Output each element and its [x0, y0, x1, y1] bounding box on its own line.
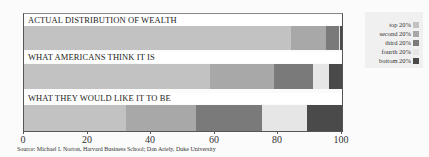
bar-think	[24, 64, 342, 89]
row-label-ideal: WHAT THEY WOULD LIKE IT TO BE	[25, 93, 341, 104]
segment-fourth	[313, 64, 329, 89]
legend-swatch	[413, 40, 419, 46]
segment-top	[24, 64, 210, 89]
legend-label: fourth 20%	[382, 48, 411, 55]
segment-bottom	[340, 26, 342, 50]
x-tick-label: 0	[21, 134, 26, 145]
segment-bottom	[307, 105, 342, 132]
row-label-actual: ACTUAL DISTRIBUTION OF WEALTH	[25, 15, 341, 26]
segment-second	[126, 105, 196, 132]
legend-label: third 20%	[385, 39, 411, 46]
legend-item-second: second 20%	[379, 30, 419, 37]
legend-item-top: top 20%	[389, 21, 419, 28]
legend-swatch	[413, 31, 419, 37]
x-tick-label: 100	[334, 134, 349, 145]
segment-second	[210, 64, 274, 89]
segment-third	[274, 64, 314, 89]
legend-swatch	[413, 49, 419, 55]
row-label-think: WHAT AMERICANS THINK IT IS	[25, 52, 341, 63]
legend-swatch	[413, 22, 419, 28]
x-axis	[23, 131, 341, 132]
segment-third	[196, 105, 263, 132]
bar-actual	[24, 26, 342, 50]
legend-item-third: third 20%	[385, 39, 419, 46]
legend-item-fourth: fourth 20%	[382, 48, 419, 55]
segment-second	[291, 26, 326, 50]
segment-bottom	[329, 64, 342, 89]
segment-fourth	[262, 105, 307, 132]
bar-ideal	[24, 105, 342, 132]
x-tick-label: 40	[145, 134, 155, 145]
segment-top	[24, 105, 126, 132]
x-tick-label: 60	[209, 134, 219, 145]
segment-top	[24, 26, 291, 50]
legend-label: second 20%	[379, 30, 411, 37]
segment-third	[326, 26, 339, 50]
x-tick-label: 20	[82, 134, 92, 145]
legend-item-bottom: bottom 20%	[379, 57, 419, 64]
legend-label: bottom 20%	[379, 57, 411, 64]
x-tick-label: 80	[272, 134, 282, 145]
legend: top 20% second 20% third 20% fourth 20% …	[365, 12, 423, 68]
legend-label: top 20%	[389, 21, 411, 28]
source-note: Source: Michael I. Norton, Harvard Busin…	[17, 146, 216, 152]
chart-plot-area: ACTUAL DISTRIBUTION OF WEALTH WHAT AMERI…	[23, 13, 343, 132]
legend-swatch	[413, 58, 419, 64]
